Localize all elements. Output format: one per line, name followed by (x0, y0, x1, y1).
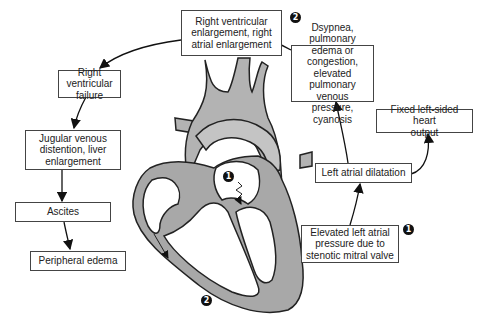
box-right-ventricular-failure: Right ventricular failure (58, 70, 121, 98)
box-dyspnea-pulmonary-edema: Dsypnea, pulmonary edema or congestion, … (291, 45, 374, 102)
box-elevated-left-atrial-pressure: Elevated left atrial pressure due to ste… (301, 225, 399, 263)
box-fixed-left-sided-output: Fixed left-sided heart output (376, 109, 473, 133)
box-jugular-venous-distention: Jugular venous distention, liver enlarge… (25, 130, 121, 170)
heart-badge-one: 1 (223, 171, 234, 182)
box-right-ventricular-enlargement: Right ventricular enlargement, right atr… (181, 10, 282, 56)
box-ascites: Ascites (15, 202, 111, 222)
heart-illustration (133, 58, 312, 312)
box-peripheral-edema: Peripheral edema (30, 251, 126, 271)
box-left-atrial-dilatation: Left atrial dilatation (315, 163, 412, 183)
heart-badge-two: 2 (201, 295, 212, 306)
badge-one: 1 (403, 224, 414, 235)
